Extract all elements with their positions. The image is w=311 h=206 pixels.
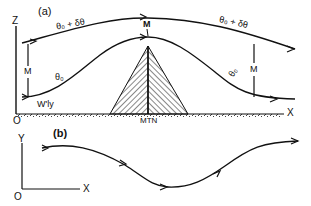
origin-label-a: O	[13, 116, 21, 126]
horizontal-streamline	[42, 138, 298, 190]
z-axis-label: Z	[12, 16, 18, 26]
mountain	[110, 46, 188, 114]
mountain-label: MTN	[140, 117, 157, 125]
westerly-flow-label: W'ly	[37, 100, 54, 109]
y-axis-label: Y	[18, 134, 25, 144]
mass-top-label: M	[143, 20, 151, 29]
panel-b-axes	[22, 143, 80, 189]
panel-a-label: (a)	[38, 6, 51, 17]
panel-b-label: (b)	[53, 128, 67, 139]
lee-wave-diagram: (a) Z θ₀ + δθ θ₀ + δθ θ₀ θ₀ M M M W'ly M…	[0, 0, 311, 206]
mass-right-label: M	[250, 65, 258, 74]
x-axis-label-a: X	[287, 108, 294, 118]
mass-left-label: M	[24, 67, 32, 76]
origin-label-b: O	[14, 192, 22, 202]
lower-isentrope-label: θ₀	[55, 73, 64, 82]
x-axis-label-b: X	[83, 184, 90, 194]
